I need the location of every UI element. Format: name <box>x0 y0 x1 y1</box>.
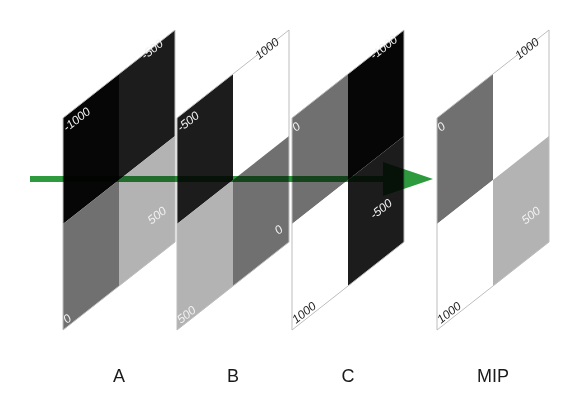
panel-caption-mip: MIP <box>477 366 509 386</box>
panel-caption-b: B <box>227 366 239 386</box>
panel-caption-c: C <box>342 366 355 386</box>
panel-mip: 010001000500 <box>434 30 549 330</box>
mip-diagram: -1000-5000500-500100050000-10001000-5000… <box>0 0 571 397</box>
captions-layer: ABCMIP <box>113 366 509 386</box>
arrow-head-icon <box>383 162 433 196</box>
arrow-shaft <box>30 176 383 182</box>
panel-caption-a: A <box>113 366 125 386</box>
